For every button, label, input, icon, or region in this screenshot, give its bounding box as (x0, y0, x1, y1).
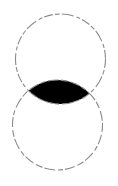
venn-svg (0, 0, 118, 186)
venn-diagram (0, 0, 118, 186)
